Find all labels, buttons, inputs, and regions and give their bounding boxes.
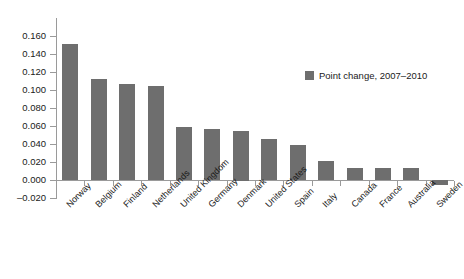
y-axis-tick-label: 0.120 — [2, 67, 46, 77]
plot-area — [56, 18, 454, 198]
y-axis-tick-label: 0.160 — [2, 31, 46, 41]
bar-chart: 0.1600.1400.1200.1000.0800.0600.0400.020… — [0, 0, 464, 279]
bar — [148, 86, 164, 180]
y-axis-tick-label: 0.020 — [2, 157, 46, 167]
y-axis-tick-label: 0.100 — [2, 85, 46, 95]
bar — [119, 84, 135, 180]
y-axis-tick-label: 0.000 — [2, 175, 46, 185]
bar — [62, 44, 78, 180]
legend-label: Point change, 2007–2010 — [319, 71, 427, 81]
chart-legend: Point change, 2007–2010 — [305, 71, 427, 81]
bar — [261, 139, 277, 180]
bar — [403, 168, 419, 180]
y-axis-tick — [50, 198, 56, 199]
y-axis-tick-label: 0.060 — [2, 121, 46, 131]
bar — [375, 168, 391, 180]
y-axis-tick-label: 0.080 — [2, 103, 46, 113]
bar — [233, 131, 249, 181]
bar — [318, 161, 334, 180]
bar — [91, 79, 107, 180]
legend-swatch-icon — [305, 71, 314, 80]
bar — [347, 168, 363, 180]
y-axis-tick-label: –0.020 — [2, 193, 46, 203]
y-axis-tick-label: 0.040 — [2, 139, 46, 149]
y-axis-tick-label: 0.140 — [2, 49, 46, 59]
